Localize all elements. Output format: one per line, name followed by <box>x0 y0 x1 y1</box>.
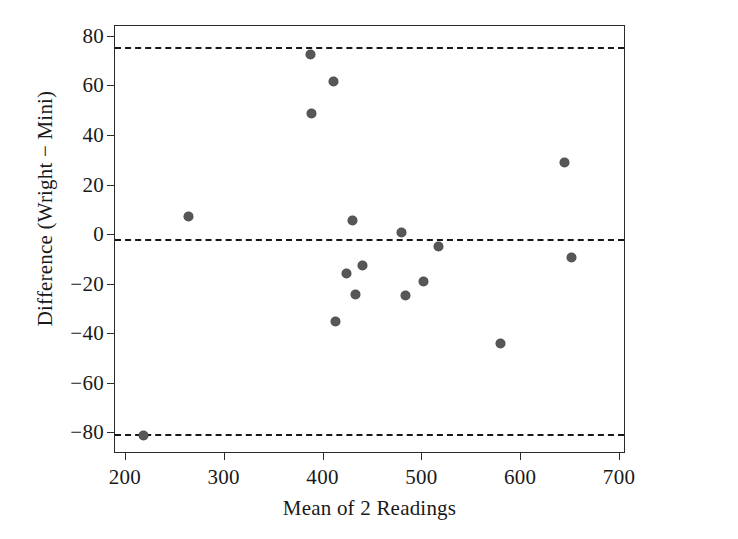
data-point <box>331 317 340 326</box>
data-point <box>342 269 351 278</box>
y-axis-tick-label: −20 <box>70 271 104 296</box>
y-axis-tick-label: 80 <box>82 23 104 48</box>
y-axis-tick <box>107 85 115 86</box>
y-axis-tick <box>107 135 115 136</box>
y-axis-title: Difference (Wright − Mini) <box>33 0 58 419</box>
y-axis-tick <box>107 432 115 433</box>
x-axis-tick-label: 400 <box>306 465 338 490</box>
y-axis-tick <box>107 185 115 186</box>
x-axis-tick <box>619 452 620 460</box>
bland-altman-chart: 806040200−20−40−60−80200300400500600700 … <box>0 0 738 539</box>
y-axis-tick-label: −60 <box>70 370 104 395</box>
x-axis-tick <box>323 452 324 460</box>
x-axis-tick <box>520 452 521 460</box>
x-axis-title: Mean of 2 Readings <box>114 496 625 521</box>
data-point <box>348 216 357 225</box>
x-axis-tick-label: 600 <box>504 465 536 490</box>
data-point <box>496 339 505 348</box>
data-point <box>139 431 148 440</box>
x-axis-tick-label: 700 <box>603 465 635 490</box>
y-axis-tick <box>107 36 115 37</box>
data-point <box>401 291 410 300</box>
upper-limit-of-agreement-line <box>115 47 624 49</box>
y-axis-tick-label: −40 <box>70 321 104 346</box>
data-point <box>419 277 428 286</box>
data-point <box>329 77 338 86</box>
y-axis-tick-label: −80 <box>70 420 104 445</box>
y-axis-tick <box>107 383 115 384</box>
data-point <box>567 253 576 262</box>
mean-difference-line <box>115 239 624 241</box>
x-axis-tick-label: 200 <box>109 465 141 490</box>
x-axis-tick <box>421 452 422 460</box>
data-point <box>358 261 367 270</box>
y-axis-tick-label: 40 <box>82 122 104 147</box>
x-axis-tick-label: 500 <box>405 465 437 490</box>
data-point <box>306 50 315 59</box>
x-axis-tick <box>224 452 225 460</box>
data-point <box>184 212 193 221</box>
y-axis-tick <box>107 284 115 285</box>
data-point <box>434 242 443 251</box>
lower-limit-of-agreement-line <box>115 434 624 436</box>
x-axis-tick <box>125 452 126 460</box>
y-axis-tick <box>107 333 115 334</box>
data-point <box>397 228 406 237</box>
y-axis-tick-label: 60 <box>82 73 104 98</box>
data-point <box>351 290 360 299</box>
data-point <box>307 109 316 118</box>
y-axis-tick-label: 20 <box>82 172 104 197</box>
x-axis-tick-label: 300 <box>208 465 240 490</box>
data-point <box>560 158 569 167</box>
y-axis-tick <box>107 234 115 235</box>
y-axis-tick-label: 0 <box>93 222 104 247</box>
plot-area: 806040200−20−40−60−80200300400500600700 <box>114 25 625 453</box>
